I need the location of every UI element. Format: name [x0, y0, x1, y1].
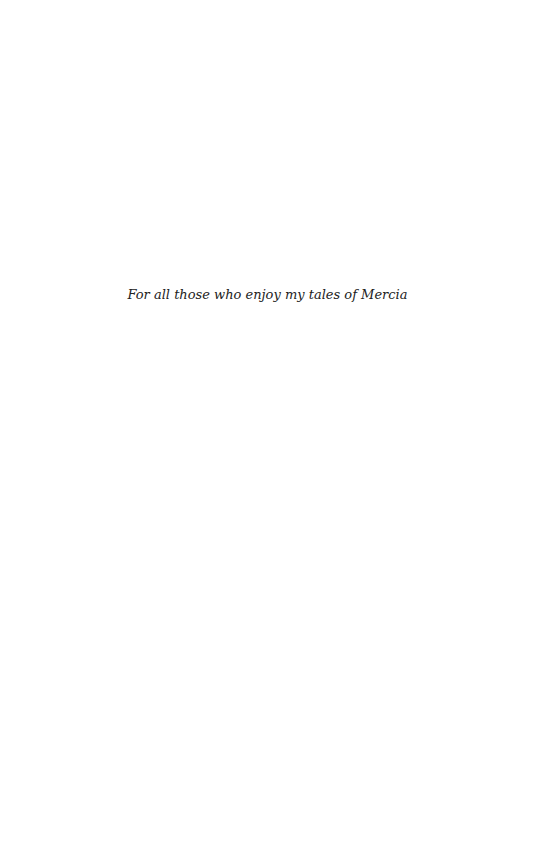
book-page: For all those who enjoy my tales of Merc…: [0, 0, 535, 866]
dedication-text: For all those who enjoy my tales of Merc…: [0, 286, 535, 304]
